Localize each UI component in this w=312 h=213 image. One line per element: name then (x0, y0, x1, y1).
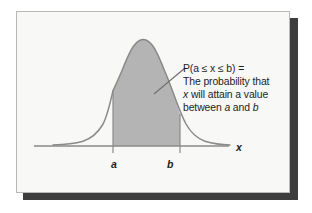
figure-page: P(a ≤ x ≤ b) = The probability that x wi… (0, 0, 312, 213)
annotation-line-3: x will attain a value (183, 88, 295, 101)
x-axis-label: x (236, 141, 242, 153)
annotation-line-4: between a and b (183, 101, 295, 114)
annotation-line-1: P(a ≤ x ≤ b) = (183, 62, 295, 75)
shaded-region-between-a-and-b (113, 40, 180, 146)
annotation-variable-b: b (253, 102, 259, 113)
axis-tick-label-b: b (167, 158, 173, 170)
annotation-line-4-pre: between (183, 102, 224, 113)
annotation-line-2: The probability that (183, 75, 295, 88)
axis-tick-label-a: a (111, 158, 117, 170)
figure-frame: P(a ≤ x ≤ b) = The probability that x wi… (16, 11, 290, 193)
annotation-line-3-rest: will attain a value (188, 89, 268, 100)
probability-annotation-text: P(a ≤ x ≤ b) = The probability that x wi… (183, 62, 295, 114)
annotation-line-4-mid: and (230, 102, 253, 113)
